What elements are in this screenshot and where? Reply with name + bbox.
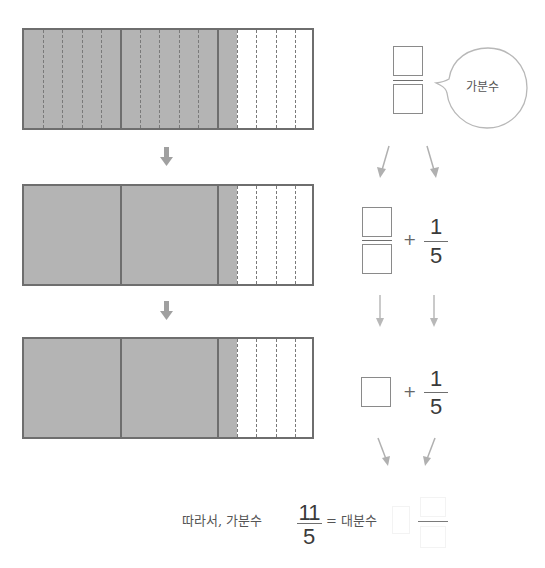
arrow-icon [427, 146, 439, 178]
fraction-bar-line [362, 240, 392, 241]
fraction-bar-line [393, 80, 423, 81]
denominator: 5 [424, 396, 448, 418]
numerator: 1 [424, 368, 448, 390]
arrow-icon [378, 438, 390, 466]
conclusion-prefix: 따라서, 가분수 [182, 514, 262, 527]
denominator: 5 [424, 245, 448, 267]
arrow-icon [423, 438, 435, 466]
mixed-numerator-input-box[interactable] [420, 497, 446, 517]
down-arrow-icon [160, 301, 173, 320]
arrow-icon [376, 295, 384, 327]
numerator: 1 [424, 216, 448, 238]
numerator-input-box[interactable] [362, 207, 392, 237]
denominator-input-box[interactable] [362, 244, 392, 274]
conclusion-denominator: 5 [296, 526, 322, 548]
conclusion-equals: = 대분수 [326, 514, 377, 527]
fraction-bar-line [424, 392, 448, 393]
conclusion-numerator: 11 [296, 502, 322, 524]
numerator-input-box[interactable] [393, 46, 423, 76]
arrows-layer [0, 0, 545, 568]
arrow-icon [377, 146, 389, 178]
fraction-bar-line [424, 241, 448, 242]
arrow-icon [430, 295, 438, 327]
plus-sign: + [403, 384, 416, 400]
denominator-input-box[interactable] [393, 84, 423, 114]
fraction-bar-line [418, 521, 448, 522]
down-arrow-icon [160, 147, 173, 166]
bubble-label: 가분수 [466, 81, 499, 93]
mixed-denominator-input-box[interactable] [420, 526, 446, 548]
plus-sign: + [403, 232, 416, 248]
mixed-whole-input-box[interactable] [392, 506, 410, 534]
whole-number-input-box[interactable] [361, 377, 391, 407]
